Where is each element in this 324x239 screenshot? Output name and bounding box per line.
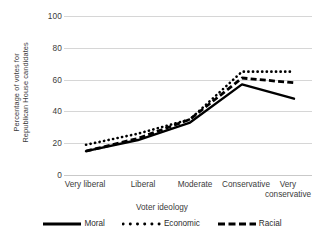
plot-area — [64, 16, 312, 175]
chart-legend: Moral Economic Racial — [0, 219, 324, 228]
legend-item-moral: Moral — [42, 219, 104, 228]
y-tick-40: 40 — [36, 106, 62, 116]
legend-label-racial: Racial — [259, 219, 282, 228]
legend-item-racial: Racial — [217, 219, 282, 228]
legend-label-economic: Economic — [164, 219, 200, 228]
x-axis-title: Voter ideology — [0, 203, 324, 212]
legend-swatch-solid-icon — [42, 219, 82, 228]
y-axis-title-line-2: Republican House candidates — [21, 42, 30, 142]
y-tick-100: 100 — [36, 11, 62, 21]
x-tick-very-conservative-line-2: conservative — [252, 190, 324, 200]
line-chart: Percentage of votes for Republican House… — [0, 0, 324, 239]
series-line-economic — [86, 72, 294, 145]
gridline-0 — [64, 175, 312, 176]
y-axis-title-line-1: Percentage of votes for — [12, 42, 21, 142]
series-line-moral — [86, 84, 294, 151]
y-tick-20: 20 — [36, 138, 62, 148]
y-tick-0: 0 — [36, 170, 62, 180]
x-tick-very-conservative-line-1: Very — [252, 180, 324, 190]
legend-swatch-dotted-icon — [122, 219, 162, 228]
series-lines — [64, 16, 312, 175]
legend-label-moral: Moral — [84, 219, 104, 228]
y-tick-80: 80 — [36, 43, 62, 53]
y-tick-60: 60 — [36, 75, 62, 85]
y-axis-title: Percentage of votes for Republican House… — [4, 0, 38, 185]
legend-item-economic: Economic — [122, 219, 200, 228]
legend-swatch-dashed-icon — [217, 219, 257, 228]
x-tick-very-conservative: Very conservative — [252, 180, 324, 199]
